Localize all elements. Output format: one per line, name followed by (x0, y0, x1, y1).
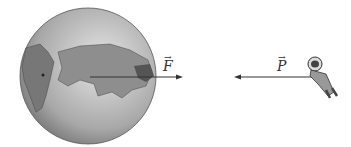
label-f: → F (163, 58, 173, 74)
arrow-p (234, 75, 318, 80)
diagram-canvas: → F → P (0, 0, 351, 147)
label-p: → P (277, 58, 286, 74)
astronaut-figure (308, 57, 337, 98)
diagram-svg (0, 0, 351, 147)
earth-globe (20, 8, 156, 144)
